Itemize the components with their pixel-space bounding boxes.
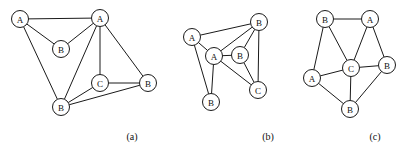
graph-node[interactable]: B (232, 47, 249, 64)
edge-group (194, 24, 259, 94)
graph-node[interactable]: C (343, 60, 360, 77)
graph-node[interactable]: B (342, 101, 359, 118)
graph-edge (320, 70, 343, 76)
graph-edge (24, 27, 58, 100)
panel-caption-c: (c) (369, 131, 380, 143)
node-label: B (384, 61, 390, 71)
node-label: A (367, 15, 374, 25)
graph-canvas: AABCBB(a)ABABBC(b)BAACBB(c) (0, 0, 418, 154)
graph-panel-b: ABABBC(b) (184, 14, 274, 143)
graph-panel-a: AABCBB(a) (12, 10, 157, 143)
graph-node[interactable]: A (206, 48, 223, 65)
graph-node[interactable]: B (203, 94, 220, 111)
node-label: A (309, 74, 316, 84)
graph-edge (221, 61, 252, 85)
graph-node[interactable]: A (184, 29, 201, 46)
node-label: A (211, 52, 218, 62)
graph-node[interactable]: B (251, 14, 268, 31)
node-label: B (145, 79, 151, 89)
graph-edge (68, 87, 93, 102)
node-label: A (189, 33, 196, 43)
graph-figure: AABCBB(a)ABABBC(b)BAACBB(c) (0, 0, 418, 154)
graph-node[interactable]: A (304, 70, 321, 87)
graph-node[interactable]: B (379, 57, 396, 74)
panel-caption-b: (b) (262, 131, 274, 143)
graph-node[interactable]: B (317, 11, 334, 28)
node-label: C (97, 79, 103, 89)
graph-edge (314, 27, 323, 69)
graph-node[interactable]: C (92, 75, 109, 92)
panel-caption-a: (a) (126, 131, 137, 143)
graph-edge (29, 18, 92, 19)
graph-node[interactable]: B (53, 41, 70, 58)
graph-edge (354, 27, 367, 60)
edge-group (24, 18, 143, 105)
node-label: B (256, 18, 262, 28)
graph-node[interactable]: B (140, 75, 157, 92)
graph-edge (355, 72, 381, 103)
graph-node[interactable]: A (362, 11, 379, 28)
node-label: C (255, 86, 261, 96)
node-label: A (17, 15, 24, 25)
node-label: B (347, 105, 353, 115)
node-label: C (348, 64, 354, 74)
node-label: B (208, 98, 214, 108)
graph-edge (27, 24, 54, 44)
graph-edge (258, 31, 259, 82)
node-label: A (97, 14, 104, 24)
node-label: B (58, 45, 64, 55)
graph-edge (244, 63, 254, 83)
graph-edge (68, 23, 94, 43)
graph-edge (329, 27, 347, 61)
graph-panel-c: BAACBB(c) (304, 11, 396, 143)
graph-node[interactable]: B (53, 99, 70, 116)
graph-edge (198, 43, 207, 51)
graph-edge (105, 25, 143, 76)
node-label: B (237, 51, 243, 61)
graph-edge (359, 66, 378, 68)
graph-edge (319, 83, 344, 103)
graph-node[interactable]: A (12, 11, 29, 28)
graph-edge (350, 77, 351, 101)
node-label: B (58, 103, 64, 113)
graph-edge (373, 27, 384, 57)
graph-node[interactable]: C (250, 82, 267, 99)
node-label: B (322, 15, 328, 25)
graph-node[interactable]: A (92, 10, 109, 27)
graph-edge (212, 64, 214, 93)
